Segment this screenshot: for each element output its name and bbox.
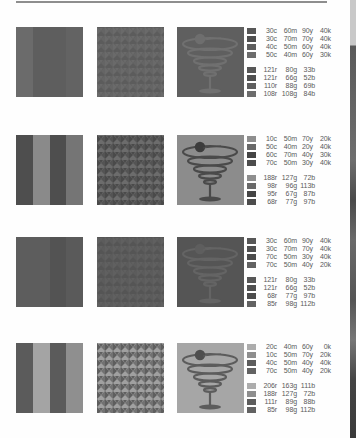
green-value: 66g — [277, 74, 297, 82]
red-value: 121r — [261, 276, 277, 284]
red-value: 68r — [261, 292, 277, 300]
rgb-swatch-row: 85r 98g 112b — [247, 300, 347, 308]
color-chip — [247, 246, 256, 252]
stripe-band — [33, 343, 50, 413]
cmyk-swatch-row: 10c 50m 70y 20k — [247, 351, 347, 359]
palette-row-3: 30c 60m 90y 40k 30c 70m 70y 40k 70c 50m … — [0, 237, 350, 309]
magenta-value: 50m — [277, 135, 297, 143]
blue-value: 84b — [297, 90, 315, 98]
rgb-swatch-row: 121r 80g 33b — [247, 276, 347, 284]
green-value: 67g — [277, 190, 297, 198]
rgb-swatch-row: 121r 80g 33b — [247, 66, 347, 74]
color-chip — [247, 399, 256, 405]
red-value: 188r — [261, 390, 277, 398]
stripe-band — [50, 343, 67, 413]
magenta-value: 50m — [277, 359, 297, 367]
yellow-value: 20y — [297, 143, 313, 151]
cmyk-swatch-row: 30c 60m 90y 40k — [247, 27, 347, 35]
stripe-band — [66, 135, 83, 205]
stripe-band — [33, 27, 50, 97]
martini-glass-icon — [177, 27, 244, 97]
blue-value: 112b — [297, 300, 315, 308]
color-chip — [247, 277, 256, 283]
rgb-values: 206r 163g 111b 188r 127g 72b 111r 89g 88… — [247, 382, 347, 414]
color-chip — [247, 75, 256, 81]
black-value: 40k — [313, 253, 331, 261]
cyan-value: 30c — [261, 237, 277, 245]
black-value: 0k — [313, 343, 331, 351]
black-value: 40k — [313, 143, 331, 151]
green-value: 80g — [277, 276, 297, 284]
pattern-sample — [97, 343, 164, 413]
red-value: 85r — [261, 300, 277, 308]
cyan-value: 50c — [261, 143, 277, 151]
rgb-swatch-row: 188r 127g 72b — [247, 390, 347, 398]
yellow-value: 70y — [297, 135, 313, 143]
blue-value: 69b — [297, 82, 315, 90]
yellow-value: 70y — [297, 35, 313, 43]
color-chip — [247, 44, 256, 50]
black-value: 40k — [313, 43, 331, 51]
cmyk-values: 10c 50m 70y 20k 50c 40m 20y 40k 60c 70m … — [247, 135, 347, 167]
green-value: 89g — [277, 398, 297, 406]
cmyk-values: 30c 60m 90y 40k 30c 70m 70y 40k 40c 50m … — [247, 27, 347, 59]
cyan-value: 10c — [261, 135, 277, 143]
cmyk-swatch-row: 10c 50m 70y 20k — [247, 135, 347, 143]
magenta-value: 70m — [277, 151, 297, 159]
black-value: 20k — [313, 351, 331, 359]
stripe-sample — [16, 237, 83, 307]
green-value: 127g — [277, 390, 297, 398]
rgb-swatch-row: 68r 77g 97b — [247, 292, 347, 300]
green-value: 98g — [277, 300, 297, 308]
magenta-value: 50m — [277, 159, 297, 167]
black-value: 30k — [313, 151, 331, 159]
martini-glass-illustration — [177, 237, 244, 307]
pattern-sample — [97, 27, 164, 97]
stripe-sample — [16, 135, 83, 205]
green-value: 88g — [277, 82, 297, 90]
cyan-value: 30c — [261, 27, 277, 35]
color-chip — [247, 83, 256, 89]
cmyk-swatch-row: 40c 50m 60y 40k — [247, 43, 347, 51]
yellow-value: 40y — [297, 359, 313, 367]
red-value: 98r — [261, 182, 277, 190]
stripe-band — [33, 135, 50, 205]
rgb-values: 121r 80g 33b 121r 66g 52b 68r 77g 97b 85… — [247, 276, 347, 308]
stripe-sample — [16, 343, 83, 413]
cyan-value: 70c — [261, 261, 277, 269]
yellow-value: 40y — [297, 367, 313, 375]
yellow-value: 60y — [297, 43, 313, 51]
yellow-value: 30y — [297, 159, 313, 167]
black-value: 20k — [313, 261, 331, 269]
blue-value: 52b — [297, 74, 315, 82]
yellow-value: 70y — [297, 351, 313, 359]
magenta-value: 50m — [277, 261, 297, 269]
green-value: 77g — [277, 292, 297, 300]
color-chip — [247, 293, 256, 299]
red-value: 121r — [261, 284, 277, 292]
blue-value: 33b — [297, 276, 315, 284]
blue-value: 72b — [297, 390, 315, 398]
cmyk-swatch-row: 30c 70m 70y 40k — [247, 35, 347, 43]
magenta-value: 40m — [277, 143, 297, 151]
color-chip — [247, 383, 256, 389]
rgb-swatch-row: 108r 108g 84b — [247, 90, 347, 98]
stripe-band — [16, 135, 33, 205]
rgb-swatch-row: 121r 66g 52b — [247, 74, 347, 82]
blue-value: 88b — [297, 398, 315, 406]
swatch-list: 30c 60m 90y 40k 30c 70m 70y 40k 70c 50m … — [247, 237, 347, 308]
magenta-value: 40m — [277, 51, 297, 59]
triangle-pattern-icon — [97, 237, 164, 307]
cmyk-swatch-row: 60c 70m 40y 30k — [247, 151, 347, 159]
yellow-value: 40y — [297, 261, 313, 269]
color-chip — [247, 285, 256, 291]
blue-value: 113b — [297, 182, 315, 190]
magenta-value: 60m — [277, 27, 297, 35]
cmyk-values: 20c 40m 60y 0k 10c 50m 70y 20k 40c 50m 4… — [247, 343, 347, 375]
green-value: 96g — [277, 182, 297, 190]
rgb-swatch-row: 95r 67g 87b — [247, 190, 347, 198]
blue-value: 97b — [297, 198, 315, 206]
color-chip — [247, 183, 256, 189]
color-chip — [247, 28, 256, 34]
magenta-value: 50m — [277, 253, 297, 261]
